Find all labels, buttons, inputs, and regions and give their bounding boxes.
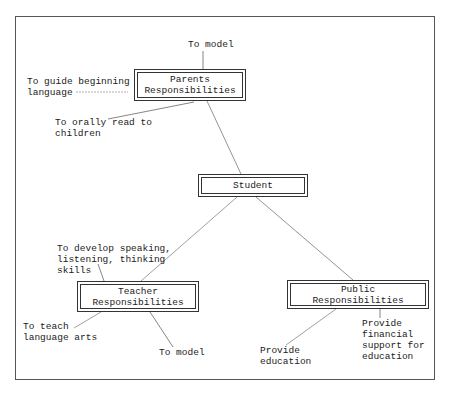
teacher-develop-skills-label: To develop speaking, listening, thinking… (57, 243, 171, 276)
student-node: Student (198, 174, 308, 197)
teacher-responsibilities-node: Teacher Responsibilities (77, 281, 199, 312)
public-responsibilities-node: Public Responsibilities (287, 280, 429, 309)
teacher-teach-language-arts-label: To teach language arts (23, 321, 97, 343)
parents-orally-read-label: To orally read to children (55, 117, 152, 139)
parents-guide-language-label: To guide beginning language (27, 76, 130, 98)
parents-to-model-label: To model (188, 39, 234, 50)
student-node-label: Student (233, 180, 273, 191)
teacher-node-label: Teacher Responsibilities (92, 286, 183, 308)
public-node-label: Public Responsibilities (312, 284, 403, 306)
public-financial-support-label: Provide financial support for education (362, 318, 425, 362)
parents-responsibilities-node: Parents Responsibilities (134, 69, 246, 101)
public-provide-education-label: Provide education (260, 345, 311, 367)
parents-node-label: Parents Responsibilities (144, 74, 235, 96)
teacher-to-model-label: To model (159, 347, 205, 358)
